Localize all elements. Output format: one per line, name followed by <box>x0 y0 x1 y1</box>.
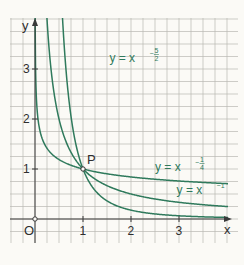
point-marker <box>81 167 85 171</box>
y-tick-label: 2 <box>23 112 30 126</box>
origin-label: O <box>24 223 34 238</box>
origin-point <box>33 217 37 221</box>
y-axis-label: y <box>22 18 29 33</box>
exponent-denominator: 4 <box>200 164 204 171</box>
curve-label: y = x <box>109 51 135 65</box>
exponent-numerator: 1 <box>200 156 204 163</box>
exponent-sign: − <box>195 159 199 166</box>
point-label: P <box>87 152 96 167</box>
x-tick-label: 1 <box>80 224 87 238</box>
exponent-numerator: 5 <box>154 47 158 54</box>
y-tick-label: 1 <box>23 162 30 176</box>
exponent-denominator: 2 <box>154 55 158 62</box>
curve-label: y = x <box>155 160 181 174</box>
curve-label: y = x <box>177 183 203 197</box>
x-axis-label: x <box>224 222 231 237</box>
x-tick-label: 3 <box>176 224 183 238</box>
x-tick-label: 2 <box>128 224 135 238</box>
exponent-sign: − <box>149 50 153 57</box>
exponent: −1 <box>217 182 225 189</box>
power-function-chart: x y O 123123 y = x−52y = x−1y = x−14 P <box>0 0 244 265</box>
y-tick-label: 3 <box>23 62 30 76</box>
